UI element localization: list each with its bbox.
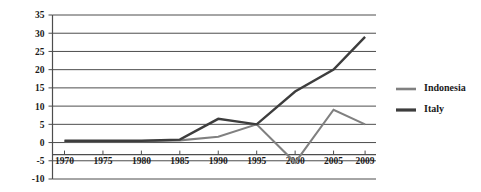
y-tick-label: 20 bbox=[35, 65, 45, 75]
line-chart: -10-505101520253035 19701975198019851990… bbox=[0, 0, 481, 192]
y-tick-label: -10 bbox=[32, 174, 45, 184]
y-tick-label: 0 bbox=[40, 138, 45, 148]
y-tick-label: 10 bbox=[35, 102, 45, 112]
y-tick-label: 35 bbox=[35, 10, 45, 20]
y-tick-label: 30 bbox=[35, 29, 45, 39]
y-tick-label: -5 bbox=[37, 156, 45, 166]
x-tick-label: 1985 bbox=[170, 156, 189, 166]
x-tick-label: 2009 bbox=[356, 156, 375, 166]
y-axis-labels: -10-505101520253035 bbox=[32, 10, 45, 184]
chart-legend: IndonesiaItaly bbox=[396, 82, 466, 114]
y-tick-label: 25 bbox=[35, 47, 45, 57]
x-tick-label: 1970 bbox=[55, 156, 74, 166]
x-tick-label: 1975 bbox=[93, 156, 112, 166]
legend-label-indonesia: Indonesia bbox=[424, 82, 466, 93]
x-tick-label: 2005 bbox=[324, 156, 343, 166]
y-tick-label: 5 bbox=[40, 120, 45, 130]
y-tick-label: 15 bbox=[35, 83, 45, 93]
x-tick-label: 1995 bbox=[247, 156, 266, 166]
data-series bbox=[65, 37, 366, 163]
x-tick-label: 1990 bbox=[209, 156, 228, 166]
x-tick-label: 1980 bbox=[132, 156, 151, 166]
x-axis-labels: 197019751980198519901995200020052009 bbox=[55, 156, 375, 166]
legend-label-italy: Italy bbox=[424, 103, 444, 114]
chart-canvas: -10-505101520253035 19701975198019851990… bbox=[0, 0, 481, 192]
series-line-italy bbox=[65, 37, 366, 141]
